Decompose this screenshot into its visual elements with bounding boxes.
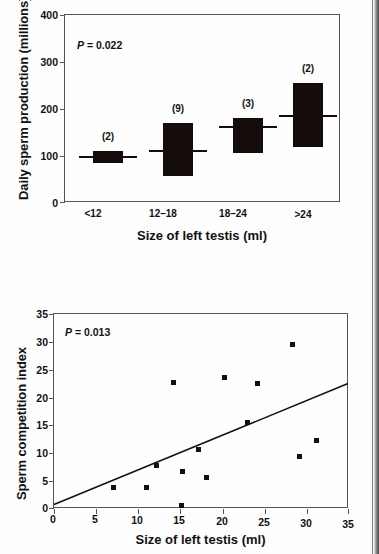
panel-bottom-ytick-25: 25	[24, 364, 48, 376]
panel-top-ytick-100: 100	[30, 150, 58, 162]
panel-bottom-xtick-30: 30	[286, 517, 326, 529]
panel-top-median-2	[149, 150, 207, 152]
data-point	[196, 447, 201, 452]
panel-top-median-4	[279, 115, 337, 117]
data-point	[297, 454, 302, 459]
panel-bottom-xtick-15: 15	[159, 514, 199, 526]
panel-top: Daily sperm production (millions) 400 30…	[0, 0, 372, 270]
panel-top-n-label-1: (2)	[78, 131, 138, 142]
panel-bottom-ytick-5: 5	[24, 475, 48, 487]
data-point	[179, 503, 184, 508]
panel-bottom-xtick-0: 0	[33, 513, 73, 525]
panel-bottom-xtick-20: 20	[202, 515, 242, 527]
page-scan-edge-line	[372, 0, 373, 554]
panel-bottom-xtick-35: 35	[328, 518, 368, 530]
panel-top-category-3: 18–24	[203, 208, 263, 219]
data-point	[245, 420, 250, 425]
data-point	[222, 375, 227, 380]
panel-bottom-tick-x-35	[348, 509, 349, 514]
data-point	[171, 380, 176, 385]
panel-top-median-1	[79, 156, 137, 158]
data-point	[111, 485, 116, 490]
data-point	[154, 463, 159, 468]
data-point	[290, 342, 295, 347]
panel-top-tick-200	[60, 109, 65, 110]
panel-top-tick-300	[60, 62, 65, 63]
panel-top-y-axis-label: Daily sperm production (millions)	[16, 0, 31, 200]
data-point	[314, 438, 319, 443]
panel-bottom-xtick-5: 5	[75, 513, 115, 525]
panel-top-plot-area: P = 0.022 (2) (9) (3) (2)	[64, 14, 340, 202]
panel-top-n-label-4: (2)	[278, 63, 338, 74]
panel-top-category-4: >24	[273, 209, 333, 220]
figure-page: Daily sperm production (millions) 400 30…	[0, 0, 379, 554]
panel-bottom-tick-x-30	[307, 509, 308, 514]
panel-bottom-plot-area: P = 0.013	[53, 313, 348, 508]
data-point	[204, 475, 209, 480]
panel-bottom-regression-line	[54, 314, 349, 509]
panel-bottom-tick-x-25	[265, 509, 266, 514]
panel-top-box-3	[233, 118, 263, 153]
panel-top-pvalue: P = 0.022	[77, 39, 122, 51]
panel-top-tick-100	[60, 156, 65, 157]
data-point	[144, 485, 149, 490]
panel-bottom-xtick-10: 10	[117, 514, 157, 526]
panel-top-ytick-400: 400	[30, 9, 58, 21]
panel-top-tick-0	[60, 202, 65, 203]
panel-top-n-label-3: (3)	[218, 98, 278, 109]
panel-top-ytick-0: 0	[30, 197, 58, 209]
panel-top-pvalue-symbol: P	[77, 39, 84, 51]
panel-top-category-1: <12	[63, 208, 123, 219]
panel-bottom-ytick-15: 15	[24, 419, 48, 431]
panel-top-x-axis-label: Size of left testis (ml)	[64, 228, 340, 243]
panel-bottom-ytick-30: 30	[24, 336, 48, 348]
panel-top-median-3	[219, 126, 277, 128]
data-point	[255, 381, 260, 386]
panel-bottom-ytick-20: 20	[24, 392, 48, 404]
panel-bottom-ytick-10: 10	[24, 447, 48, 459]
panel-top-ytick-200: 200	[30, 103, 58, 115]
panel-bottom: Sperm competition index 35 30 25 20 15 1…	[0, 300, 372, 554]
data-point	[180, 469, 185, 474]
panel-top-ytick-300: 300	[30, 56, 58, 68]
panel-bottom-tick-x-20	[223, 509, 224, 514]
panel-bottom-x-axis-label: Size of left testis (ml)	[53, 532, 348, 547]
panel-bottom-xtick-25: 25	[244, 516, 284, 528]
page-scan-edge	[372, 0, 379, 554]
panel-top-n-label-2: (9)	[148, 103, 208, 114]
panel-bottom-ytick-35: 35	[24, 308, 48, 320]
panel-top-pvalue-number: = 0.022	[84, 39, 122, 51]
panel-top-category-2: 12–18	[133, 208, 193, 219]
panel-top-tick-400	[60, 15, 65, 16]
